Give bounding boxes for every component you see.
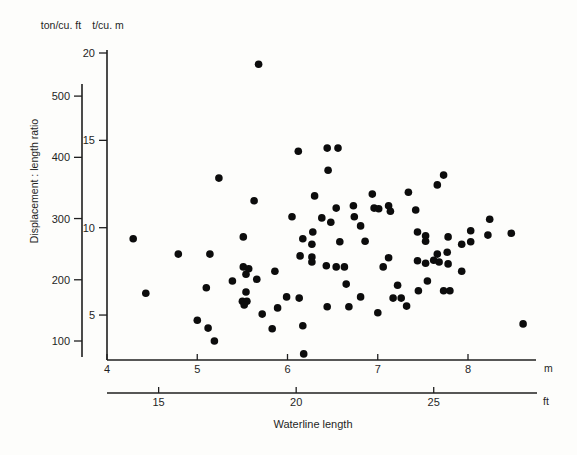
data-point <box>369 190 377 198</box>
data-point <box>242 271 250 279</box>
data-point <box>422 259 430 267</box>
data-point <box>215 174 223 182</box>
data-point <box>229 277 237 285</box>
data-point <box>311 192 319 200</box>
y-tick-label-t-cu-m: 20 <box>83 47 95 59</box>
data-point <box>397 294 405 302</box>
x-tick-label-m: 6 <box>284 363 290 375</box>
data-point <box>211 337 219 345</box>
y-tick-label-ton-cu-ft: 400 <box>52 151 70 163</box>
x-tick-label-m: 8 <box>465 363 471 375</box>
data-point <box>240 233 248 241</box>
data-point <box>414 257 422 265</box>
y-unit-t-cu-m-label: t/cu. m <box>92 19 124 31</box>
data-point <box>341 263 349 271</box>
x-tick-label-ft: 25 <box>428 396 440 408</box>
data-point <box>375 205 383 213</box>
x-unit-m-label: m <box>544 362 553 374</box>
data-point <box>458 241 466 249</box>
data-point <box>361 237 369 245</box>
data-point <box>336 238 344 246</box>
y-tick-label-ton-cu-ft: 200 <box>52 274 70 286</box>
y-unit-ton-cu-ft-label: ton/cu. ft <box>41 19 81 31</box>
data-point <box>334 144 342 152</box>
data-point <box>444 260 452 268</box>
data-point <box>458 267 466 275</box>
x-unit-ft-label: ft <box>543 395 549 407</box>
x-tick-label-ft: 15 <box>153 396 165 408</box>
scatter-plot-canvas: 100200300400500 5101520 45678 152025 ton… <box>0 0 577 455</box>
y-tick-label-ton-cu-ft: 300 <box>52 213 70 225</box>
data-point <box>412 206 420 214</box>
y-tick-label-ton-cu-ft: 100 <box>52 335 70 347</box>
scatter-figure: 100200300400500 5101520 45678 152025 ton… <box>0 0 577 455</box>
data-point <box>444 233 452 241</box>
data-point <box>323 303 331 311</box>
data-point <box>308 258 316 266</box>
data-point <box>440 171 448 179</box>
data-point <box>486 215 494 223</box>
data-point <box>324 166 332 174</box>
data-point <box>318 214 326 222</box>
data-point <box>385 254 393 262</box>
data-point <box>204 324 212 332</box>
data-point <box>443 248 451 256</box>
y-tick-label-t-cu-m: 5 <box>89 309 95 321</box>
data-point <box>342 280 350 288</box>
data-point <box>295 294 303 302</box>
data-point <box>296 252 304 260</box>
y-tick-label-ton-cu-ft: 500 <box>52 90 70 102</box>
data-point <box>295 147 303 155</box>
data-point <box>345 303 353 311</box>
data-point <box>203 284 211 292</box>
data-point <box>242 288 250 296</box>
data-point <box>519 320 527 328</box>
data-point <box>332 263 340 271</box>
data-point <box>389 294 397 302</box>
data-point <box>484 231 492 239</box>
data-point <box>414 228 422 236</box>
data-point <box>467 227 475 235</box>
data-point <box>434 181 442 189</box>
data-point <box>283 293 291 301</box>
data-point <box>274 304 282 312</box>
data-point <box>299 235 307 243</box>
data-point <box>351 213 359 221</box>
x-axis-title: Waterline length <box>273 418 352 430</box>
data-point <box>387 207 395 215</box>
data-point <box>250 197 258 205</box>
data-point <box>379 263 387 271</box>
data-point <box>299 322 307 330</box>
data-point <box>268 325 276 333</box>
data-point <box>206 250 214 258</box>
data-point <box>357 222 365 230</box>
data-point <box>309 228 317 236</box>
data-point <box>323 262 331 270</box>
x-tick-label-ft: 20 <box>290 396 302 408</box>
y-tick-label-t-cu-m: 10 <box>83 222 95 234</box>
data-point <box>194 316 202 324</box>
data-point <box>446 287 454 295</box>
data-point <box>308 241 316 249</box>
data-point <box>508 229 516 237</box>
x-axis-ft-ticks: 152025 <box>153 387 440 408</box>
data-point <box>240 301 248 309</box>
data-point <box>332 204 340 212</box>
data-point <box>405 188 413 196</box>
data-points <box>129 61 526 358</box>
data-point <box>357 293 365 301</box>
data-point <box>374 309 382 317</box>
data-point <box>394 282 402 290</box>
data-point <box>467 238 475 246</box>
x-tick-label-m: 4 <box>104 363 110 375</box>
data-point <box>253 275 261 283</box>
y-axis-t-cu-m-ticks: 5101520 <box>83 47 107 321</box>
data-point <box>403 302 411 310</box>
data-point <box>288 213 296 221</box>
data-point <box>255 61 263 69</box>
data-point <box>258 310 266 318</box>
data-point <box>350 202 358 210</box>
data-point <box>300 350 308 358</box>
data-point <box>422 237 430 245</box>
x-axis-m-ticks: 45678 <box>104 354 471 375</box>
